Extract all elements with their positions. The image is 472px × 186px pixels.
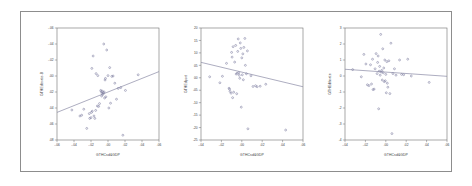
x-tick-label: .06 [157,143,162,147]
x-tick-label: -.02 [363,143,369,147]
scatter-plot-3: 3210-1-2-3-4-.04-.02.00.02.04.06GTHCsd&G… [309,12,453,173]
y-tick-label: .08 [49,138,54,142]
y-tick-label: -1 [339,90,342,94]
x-tick-label: .06 [301,143,306,147]
x-tick-label: .04 [424,143,429,147]
y-tick-label: -.06 [48,26,54,30]
y-tick-label: -4 [339,138,342,142]
x-tick-label: .00 [384,143,389,147]
y-tick-label: 3 [340,26,342,30]
y-tick-label: 0 [340,74,342,78]
y-tick-label: -2 [339,106,342,110]
figure-root: -.06-.04-.02.00.02.04.06.08-.06-.04-.02.… [0,0,472,186]
y-tick-label: .02 [49,90,54,94]
y-tick-label: 2 [340,42,342,46]
scatter-panel-2: 2015100500-05-10-15-20-25-.04-.02.00.02.… [165,12,309,173]
x-tick-label: -.06 [54,143,60,147]
scatter-panel-3: 3210-1-2-3-4-.04-.02.00.02.04.06GTHCsd&G… [309,12,453,173]
y-axis-title: GTHEdthrate [328,73,332,94]
plot-border [201,28,303,140]
x-tick-label: .02 [123,143,128,147]
x-tick-label: .00 [240,143,245,147]
x-tick-label: .04 [140,143,145,147]
x-axis-title: GTHCsd&GDP [96,153,121,157]
y-tick-label: 15 [194,39,198,43]
x-tick-label: .02 [260,143,265,147]
scatter-plot-1: -.06-.04-.02.00.02.04.06.08-.06-.04-.02.… [21,12,165,173]
x-tick-label: .02 [404,143,409,147]
y-tick-label: 20 [194,26,198,30]
y-axis-title: GTHEdport [184,75,188,93]
scatter-plot-2: 2015100500-05-10-15-20-25-.04-.02.00.02.… [165,12,309,173]
y-axis-title: GTHEdtrrate-B [40,71,44,96]
x-tick-label: -.04 [71,143,77,147]
y-tick-label: -10 [193,101,198,105]
x-tick-label: -.02 [219,143,225,147]
y-tick-label: -15 [193,113,198,117]
x-tick-label: .06 [445,143,450,147]
plot-border [57,28,159,140]
x-tick-label: -.02 [88,143,94,147]
y-tick-label: 00 [194,76,198,80]
x-axis-title: GTHCsd&GDP [240,153,265,157]
y-tick-label: 05 [194,64,198,68]
plot-border [345,28,447,140]
x-tick-label: -.04 [198,143,204,147]
figure-outer-frame: -.06-.04-.02.00.02.04.06.08-.06-.04-.02.… [20,11,452,172]
y-tick-label: -.04 [48,42,54,46]
x-tick-label: -.04 [342,143,348,147]
x-tick-label: .00 [106,143,111,147]
y-tick-label: .00 [49,74,54,78]
x-tick-label: .04 [280,143,285,147]
y-tick-label: -.02 [48,58,54,62]
y-tick-label: -05 [193,88,198,92]
y-tick-label: -3 [339,122,342,126]
scatter-panel-1: -.06-.04-.02.00.02.04.06.08-.06-.04-.02.… [21,12,165,173]
x-axis-title: GTHCsd&GDP [384,153,409,157]
y-tick-label: -25 [193,138,198,142]
y-tick-label: 10 [194,51,198,55]
y-tick-label: 1 [340,58,342,62]
y-tick-label: .04 [49,106,54,110]
y-tick-label: .06 [49,122,54,126]
y-tick-label: -20 [193,126,198,130]
